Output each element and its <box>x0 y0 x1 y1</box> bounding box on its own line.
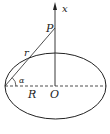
angle-label: α <box>19 76 25 85</box>
radius-label: R <box>27 88 36 101</box>
alpha-angle-arc <box>12 78 16 86</box>
r-line <box>5 28 55 86</box>
point-label: P <box>45 22 54 35</box>
x-axis-arrow-icon <box>53 2 57 10</box>
origin-label: O <box>50 88 59 101</box>
ring-diagram: x P r α R O <box>0 0 110 134</box>
axis-label: x <box>62 3 68 14</box>
distance-label: r <box>24 47 30 58</box>
